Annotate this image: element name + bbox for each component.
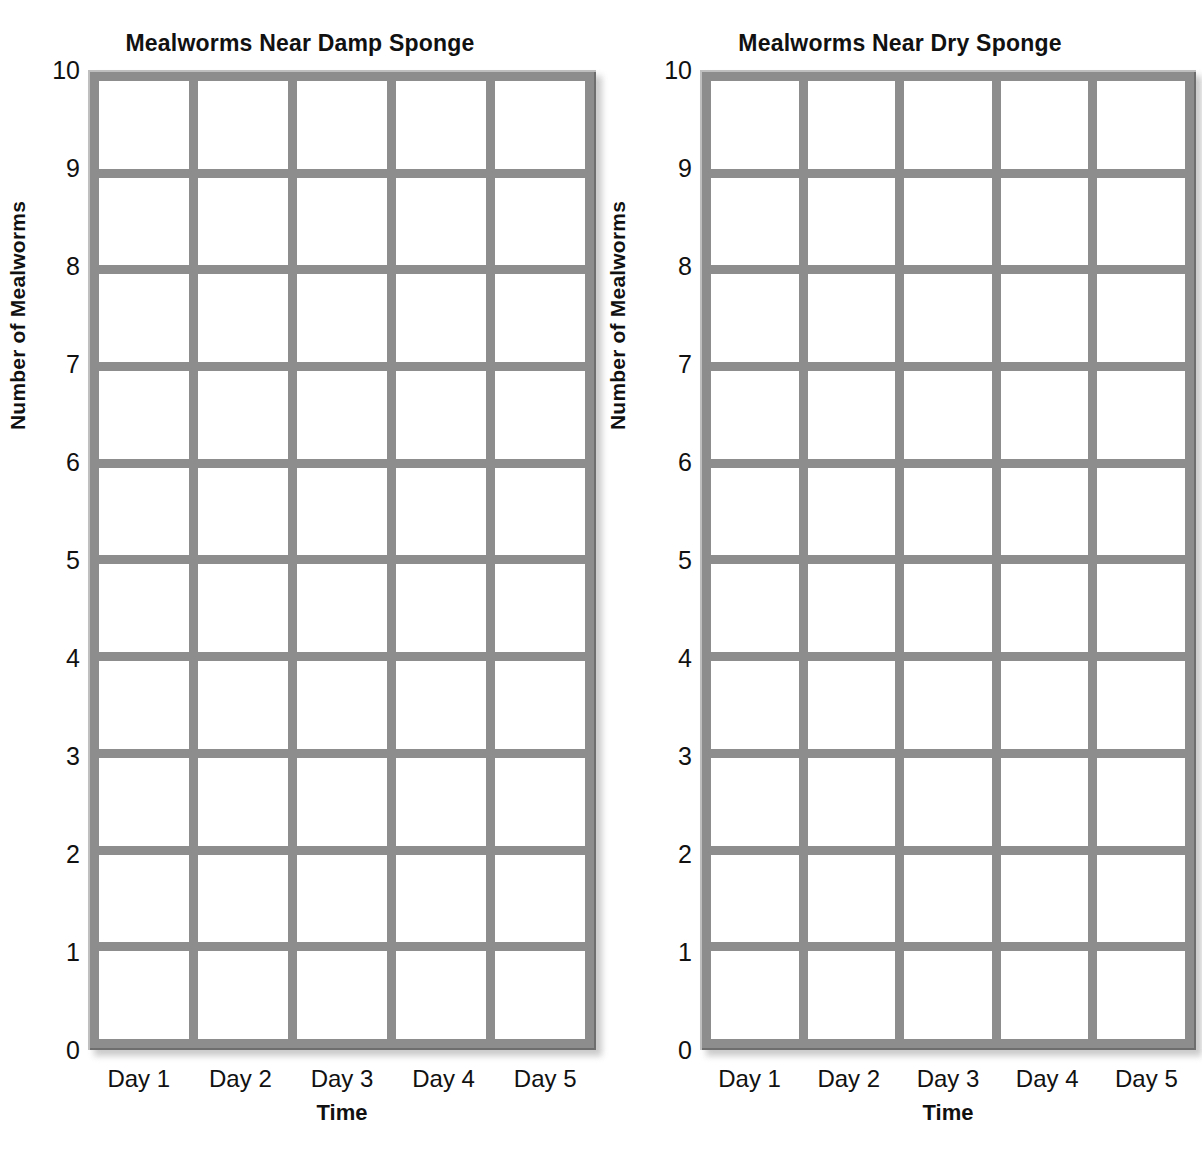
grid-cell[interactable] — [904, 951, 992, 1039]
grid-cell[interactable] — [808, 564, 896, 652]
grid-cell[interactable] — [904, 371, 992, 459]
grid-cell[interactable] — [1097, 758, 1185, 846]
grid-cell[interactable] — [495, 371, 585, 459]
grid-cell[interactable] — [297, 951, 387, 1039]
grid-cell[interactable] — [904, 661, 992, 749]
grid-cell[interactable] — [99, 758, 189, 846]
grid-cell[interactable] — [808, 951, 896, 1039]
grid-cell[interactable] — [1097, 371, 1185, 459]
grid-cell[interactable] — [99, 855, 189, 943]
grid-cell[interactable] — [1097, 951, 1185, 1039]
grid-cell[interactable] — [198, 274, 288, 362]
grid-cell[interactable] — [396, 661, 486, 749]
grid-cell[interactable] — [808, 81, 896, 169]
grid-cell[interactable] — [297, 564, 387, 652]
grid-cell[interactable] — [1097, 661, 1185, 749]
grid-cell[interactable] — [711, 178, 799, 266]
grid-cell[interactable] — [99, 178, 189, 266]
grid-cell[interactable] — [711, 951, 799, 1039]
grid-cell[interactable] — [198, 81, 288, 169]
grid-cell[interactable] — [495, 468, 585, 556]
grid-cell[interactable] — [396, 758, 486, 846]
grid-cell[interactable] — [495, 564, 585, 652]
grid-cell[interactable] — [1001, 758, 1089, 846]
grid-cell[interactable] — [904, 274, 992, 362]
grid-cell[interactable] — [1001, 951, 1089, 1039]
grid-cell[interactable] — [711, 758, 799, 846]
grid-cell[interactable] — [396, 371, 486, 459]
grid-cell[interactable] — [396, 951, 486, 1039]
grid-cell[interactable] — [904, 564, 992, 652]
grid-cell[interactable] — [396, 178, 486, 266]
grid-cell[interactable] — [711, 661, 799, 749]
grid-cell[interactable] — [808, 855, 896, 943]
grid-cell[interactable] — [495, 855, 585, 943]
grid-cell[interactable] — [808, 758, 896, 846]
grid-cell[interactable] — [1001, 855, 1089, 943]
grid-cell[interactable] — [198, 371, 288, 459]
grid-cell[interactable] — [808, 178, 896, 266]
grid-cell[interactable] — [1001, 468, 1089, 556]
grid-cell[interactable] — [1097, 468, 1185, 556]
grid-cell[interactable] — [198, 468, 288, 556]
grid-cell[interactable] — [1097, 855, 1185, 943]
grid-cell[interactable] — [711, 468, 799, 556]
grid-cell[interactable] — [99, 371, 189, 459]
grid-cell[interactable] — [808, 661, 896, 749]
grid-cell[interactable] — [99, 81, 189, 169]
grid-cell[interactable] — [495, 661, 585, 749]
grid-cell[interactable] — [396, 81, 486, 169]
grid-cell[interactable] — [904, 468, 992, 556]
grid-cell[interactable] — [495, 81, 585, 169]
grid-cell[interactable] — [1097, 81, 1185, 169]
grid-cell[interactable] — [1097, 274, 1185, 362]
grid-cell[interactable] — [711, 564, 799, 652]
grid-cell[interactable] — [99, 564, 189, 652]
grid-cell[interactable] — [495, 951, 585, 1039]
grid-cell[interactable] — [198, 855, 288, 943]
grid-cell[interactable] — [1097, 564, 1185, 652]
grid-cell[interactable] — [99, 661, 189, 749]
grid-cell[interactable] — [1001, 564, 1089, 652]
grid-cell[interactable] — [198, 178, 288, 266]
grid-cell[interactable] — [495, 758, 585, 846]
grid-cell[interactable] — [1001, 371, 1089, 459]
grid-cell[interactable] — [711, 855, 799, 943]
grid-cell[interactable] — [808, 274, 896, 362]
grid-cell[interactable] — [297, 274, 387, 362]
grid-cell[interactable] — [1001, 81, 1089, 169]
grid-cell[interactable] — [396, 564, 486, 652]
grid-cell[interactable] — [297, 371, 387, 459]
grid-cell[interactable] — [99, 274, 189, 362]
grid-cell[interactable] — [904, 855, 992, 943]
grid-cell[interactable] — [99, 468, 189, 556]
grid-cell[interactable] — [1001, 178, 1089, 266]
grid-cell[interactable] — [297, 758, 387, 846]
grid-cell[interactable] — [904, 81, 992, 169]
grid-cell[interactable] — [297, 81, 387, 169]
grid-cell[interactable] — [99, 951, 189, 1039]
grid-cell[interactable] — [297, 468, 387, 556]
grid-cell[interactable] — [198, 661, 288, 749]
grid-cell[interactable] — [198, 951, 288, 1039]
grid-cell[interactable] — [808, 371, 896, 459]
grid-cell[interactable] — [198, 564, 288, 652]
grid-cell[interactable] — [396, 274, 486, 362]
grid-cell[interactable] — [904, 758, 992, 846]
grid-cell[interactable] — [711, 274, 799, 362]
grid-cell[interactable] — [711, 371, 799, 459]
grid-cell[interactable] — [711, 81, 799, 169]
grid-cell[interactable] — [297, 661, 387, 749]
grid-cell[interactable] — [198, 758, 288, 846]
grid-cell[interactable] — [495, 274, 585, 362]
grid-cell[interactable] — [297, 855, 387, 943]
grid-cell[interactable] — [1001, 661, 1089, 749]
grid-cell[interactable] — [495, 178, 585, 266]
grid-cell[interactable] — [1097, 178, 1185, 266]
grid-cell[interactable] — [1001, 274, 1089, 362]
grid-cell[interactable] — [904, 178, 992, 266]
grid-cell[interactable] — [808, 468, 896, 556]
grid-cell[interactable] — [297, 178, 387, 266]
grid-cell[interactable] — [396, 855, 486, 943]
grid-cell[interactable] — [396, 468, 486, 556]
